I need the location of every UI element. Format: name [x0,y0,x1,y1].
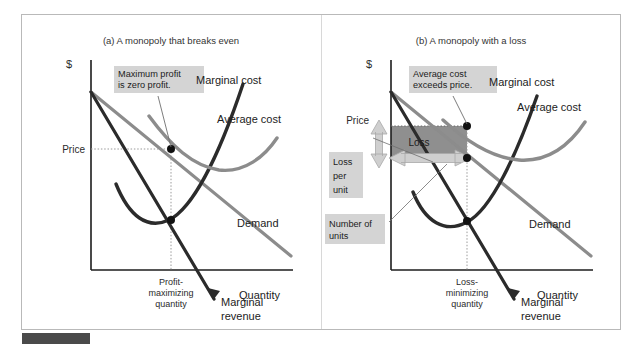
panel-b-loss-box-label: Loss [408,137,429,148]
panel-a-quantity-label-1: Profit- [159,277,183,287]
panel-b-marginal-cost-label: Marginal cost [489,76,554,88]
panel-b-quantity-label-2: minimizing [446,288,489,298]
panel-b-mr-mc-point [463,217,471,225]
panel-a-chart: (a) A monopoly that breaks even $ Maximu… [21,14,321,330]
panel-b-callout-line-2: exceeds price. [413,80,472,90]
panel-b-number-of-units-line-1: Number of [329,219,372,229]
panel-a-price-label: Price [62,144,85,155]
panel-a-average-cost-label: Average cost [217,113,281,125]
panel-b-number-of-units-leader [389,164,447,222]
panel-b-average-cost-label: Average cost [517,101,581,113]
panel-a-callout-line-2: is zero profit. [118,80,171,90]
panel-b-marginal-revenue-curve [391,92,514,299]
panel-a-quantity-label-2: maximizing [148,288,193,298]
panel-b-number-of-units-line-2: units [329,231,349,241]
panel-a-marginal-cost-label: Marginal cost [196,74,261,86]
panel-b-chart: (b) A monopoly with a loss $ [321,14,621,330]
panel-a-y-axis-title: $ [66,58,72,70]
panel-b-with-loss: (b) A monopoly with a loss $ [321,14,621,330]
panel-b-loss-per-unit-line-1: Loss [333,157,353,167]
panel-b-y-axis-title: $ [366,58,372,70]
panel-b-marginal-revenue-label-2: revenue [521,310,561,322]
monopoly-figure: (a) A monopoly that breaks even $ Maximu… [0,0,642,346]
panel-b-price-label: Price [346,115,369,126]
panel-a-callout-leader [158,96,171,147]
figure-source-bar [22,333,90,344]
panel-a-marginal-revenue-label-2: revenue [221,310,261,322]
panel-b-demand-label: Demand [529,218,571,230]
panel-b-quantity-label-1: Loss- [456,277,478,287]
panel-b-demand-curve [391,92,591,256]
panel-b-loss-per-unit-arrow [371,120,387,168]
panel-b-quantity-label-3: quantity [451,299,483,309]
panel-b-title: (b) A monopoly with a loss [416,35,527,46]
panel-a-mr-mc-point [167,216,175,224]
panel-a-breaks-even: (a) A monopoly that breaks even $ Maximu… [21,14,321,330]
panel-a-x-axis-title: Quantity [239,289,280,301]
panel-b-callout-leader [453,96,467,124]
panel-a-quantity-label-3: quantity [155,299,187,309]
panel-a-title: (a) A monopoly that breaks even [103,35,239,46]
panel-b-x-axis-title: Quantity [537,289,578,301]
panel-b-price-point [463,154,471,162]
panel-a-callout-line-1: Maximum profit [118,69,181,79]
panel-b-callout-line-1: Average cost [413,69,467,79]
panel-a-demand-label: Demand [237,217,279,229]
panel-b-loss-per-unit-line-2: per [333,171,346,181]
panel-b-loss-per-unit-line-3: unit [333,185,348,195]
